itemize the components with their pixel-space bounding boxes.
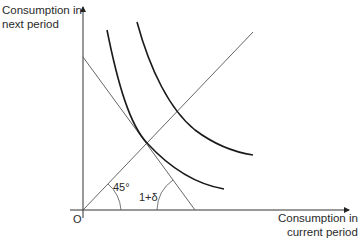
- x-axis-label-line1: Consumption in: [278, 211, 358, 225]
- 45-degree-line: [83, 32, 253, 210]
- y-axis-label-line2: next period: [2, 17, 82, 31]
- origin-label: O: [73, 212, 82, 226]
- indifference-curve-1: [107, 30, 224, 189]
- x-axis-label: Consumption in current period: [278, 211, 358, 239]
- y-axis-label: Consumption in next period: [2, 3, 82, 31]
- x-axis-label-line2: current period: [278, 225, 358, 239]
- angle-delta-label: 1+δ: [139, 190, 158, 204]
- angle-45-label: 45°: [113, 180, 130, 194]
- angle-arc-delta: [157, 180, 173, 210]
- y-axis-label-line1: Consumption in: [2, 3, 82, 17]
